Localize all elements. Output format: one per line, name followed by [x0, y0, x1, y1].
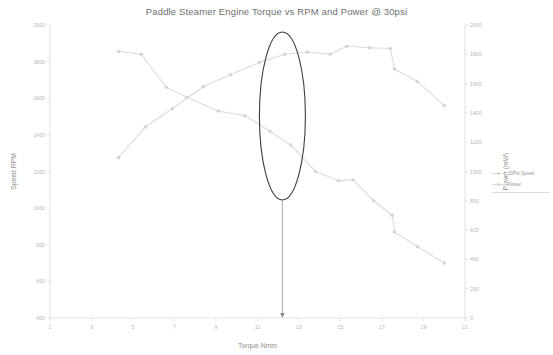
data-point-marker: [368, 46, 371, 49]
data-point-marker: [443, 104, 446, 107]
legend-label-speed: 30Psi Speed: [508, 171, 534, 176]
legend-item-power[interactable]: Power: [492, 179, 550, 190]
legend-label-power: Power: [508, 182, 521, 187]
data-point-marker: [443, 262, 446, 265]
chart-container: Paddle Steamer Engine Torque vs RPM and …: [0, 0, 553, 355]
data-point-marker: [289, 143, 292, 146]
y-tick-label-left: 400: [36, 315, 45, 321]
data-point-marker: [165, 86, 168, 89]
data-point-marker: [345, 45, 348, 48]
y-tick-label-left: 2000: [33, 22, 45, 28]
x-tick-label: 11: [255, 324, 260, 330]
legend-item-speed[interactable]: 30Psi Speed: [492, 168, 550, 179]
data-point-marker: [389, 47, 392, 50]
data-point-marker: [268, 130, 271, 133]
x-tick-label: 5: [132, 324, 135, 330]
chart-legend: 30Psi Speed Power: [492, 168, 550, 193]
data-point-marker: [416, 245, 419, 248]
data-point-marker: [229, 73, 232, 76]
data-point-marker: [391, 214, 394, 217]
y-tick-label-right: 1600: [470, 81, 482, 87]
x-tick-label: 7: [173, 324, 176, 330]
legend-swatch-speed: [492, 173, 505, 174]
x-tick-label: 17: [379, 324, 385, 330]
y-tick-label-right: 400: [470, 256, 479, 262]
data-point-marker: [258, 61, 261, 64]
y-tick-label-left: 800: [36, 242, 45, 248]
x-tick-label: 3: [90, 324, 93, 330]
data-point-marker: [393, 67, 396, 70]
axis-titles-layer: Speed RPMPower (mW)Torque Nmm: [10, 153, 510, 350]
data-point-marker: [393, 230, 396, 233]
y-tick-label-right: 1800: [470, 51, 482, 57]
x-axis-title: Torque Nmm: [238, 342, 277, 350]
series-line: [118, 46, 444, 157]
data-point-marker: [372, 199, 375, 202]
y-tick-label-right: 0: [470, 315, 473, 321]
data-point-marker: [314, 170, 317, 173]
x-tick-label: 1: [49, 324, 52, 330]
series-1: [117, 50, 446, 265]
y-tick-label-left: 600: [36, 278, 45, 284]
y-tick-label-right: 1200: [470, 139, 482, 145]
y-tick-label-left: 1800: [33, 59, 45, 65]
data-point-marker: [144, 125, 147, 128]
chart-plot-area: 4006008001000120014001600180020000200400…: [0, 0, 553, 355]
y-tick-label-right: 1400: [470, 110, 482, 116]
data-point-marker: [306, 51, 309, 54]
y-tick-label-right: 200: [470, 286, 479, 292]
data-point-marker: [337, 179, 340, 182]
x-tick-label: 9: [215, 324, 218, 330]
legend-swatch-power: [492, 184, 505, 185]
y-tick-label-left: 1600: [33, 95, 45, 101]
axes-layer: 4006008001000120014001600180020000200400…: [33, 22, 481, 330]
y-tick-label-right: 1000: [470, 169, 482, 175]
callout-arrow-head: [280, 313, 284, 318]
data-point-marker: [171, 107, 174, 110]
x-tick-label: 19: [421, 324, 427, 330]
legend-divider: [492, 192, 550, 193]
data-point-marker: [351, 178, 354, 181]
y-tick-label-right: 600: [470, 227, 479, 233]
data-point-marker: [416, 80, 419, 83]
series-2: [117, 45, 446, 159]
y-tick-label-right: 800: [470, 198, 479, 204]
y-tick-label-left: 1400: [33, 132, 45, 138]
x-tick-label: 21: [462, 324, 468, 330]
y-tick-label-right: 2000: [470, 22, 482, 28]
data-point-marker: [244, 114, 247, 117]
data-point-marker: [140, 53, 143, 56]
y-tick-label-left: 1200: [33, 169, 45, 175]
data-point-marker: [329, 53, 332, 56]
y-axis-title-left: Speed RPM: [10, 153, 18, 190]
data-point-marker: [117, 156, 120, 159]
data-point-marker: [202, 85, 205, 88]
y-tick-label-left: 1000: [33, 205, 45, 211]
highlight-ellipse: [259, 32, 305, 200]
x-tick-label: 15: [338, 324, 344, 330]
x-tick-label: 13: [296, 324, 302, 330]
data-point-marker: [117, 50, 120, 53]
data-point-marker: [283, 53, 286, 56]
data-point-marker: [217, 110, 220, 113]
annotation-layer: [259, 32, 305, 318]
series-layer: [117, 45, 446, 265]
